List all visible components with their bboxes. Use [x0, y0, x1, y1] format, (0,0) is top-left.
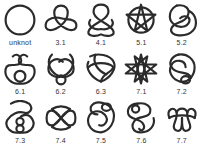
knot-label: 7.2	[177, 88, 187, 96]
knot-7-7-icon	[164, 100, 200, 136]
knot-cell: 5.2	[162, 0, 202, 49]
knot-cell: 7.4	[40, 98, 80, 147]
knot-cell: 7.3	[0, 98, 40, 147]
knot-cell: 3.1	[40, 0, 80, 49]
knot-label: 3.1	[55, 39, 65, 47]
knot-label: 7.5	[96, 137, 106, 145]
knot-cell: 7.7	[162, 98, 202, 147]
knot-label: 7.6	[136, 137, 146, 145]
knot-cell: 6.2	[40, 49, 80, 98]
knot-label: 6.2	[55, 88, 65, 96]
knot-7-6-icon	[123, 100, 159, 136]
knot-cell: 7.1	[121, 49, 161, 98]
knot-7-5-icon	[83, 100, 119, 136]
knot-6-3-icon	[83, 51, 119, 87]
cinquefoil-knot-icon	[123, 2, 159, 38]
unknot-icon	[2, 2, 38, 38]
figure-eight-knot-icon	[83, 2, 119, 38]
knot-label: 5.2	[177, 39, 187, 47]
knot-label: 5.1	[136, 39, 146, 47]
knot-cell: 5.1	[121, 0, 161, 49]
septafoil-knot-icon	[123, 51, 159, 87]
knot-cell: 7.6	[121, 98, 161, 147]
knot-cell: 6.1	[0, 49, 40, 98]
knot-cell: unknot	[0, 0, 40, 49]
knot-label: unknot	[9, 39, 31, 47]
knot-cell: 6.3	[81, 49, 121, 98]
knot-label: 7.3	[15, 137, 25, 145]
knot-table: unknot 3.1 4.1 5.1 5.2	[0, 0, 202, 147]
knot-7-4-icon	[43, 100, 79, 136]
three-twist-knot-icon	[164, 2, 200, 38]
knot-label: 7.7	[177, 137, 187, 145]
knot-label: 6.3	[96, 88, 106, 96]
knot-7-2-icon	[164, 51, 200, 87]
knot-label: 7.4	[55, 137, 65, 145]
knot-cell: 4.1	[81, 0, 121, 49]
trefoil-knot-icon	[43, 2, 79, 38]
knot-label: 6.1	[15, 88, 25, 96]
knot-cell: 7.2	[162, 49, 202, 98]
stevedore-knot-icon	[2, 51, 38, 87]
knot-label: 4.1	[96, 39, 106, 47]
knot-cell: 7.5	[81, 98, 121, 147]
knot-7-3-icon	[2, 100, 38, 136]
knot-6-2-icon	[43, 51, 79, 87]
knot-label: 7.1	[136, 88, 146, 96]
